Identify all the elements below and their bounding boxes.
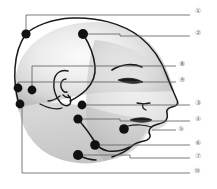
landmark-point-3 [78, 101, 87, 110]
landmark-point-1 [21, 29, 30, 38]
landmark-point-4 [73, 114, 82, 123]
label-3: ③ [195, 99, 201, 108]
head-diagram-svg [0, 0, 217, 189]
label-6: ⑥ [195, 139, 201, 148]
face-shape [86, 40, 178, 161]
landmark-point-2 [78, 29, 88, 39]
landmark-point-10 [16, 100, 25, 109]
landmark-point-9 [14, 84, 23, 93]
landmark-point-5 [119, 124, 129, 134]
label-9: ⑨ [179, 76, 185, 85]
label-4: ④ [195, 115, 201, 124]
label-1: ① [195, 7, 201, 16]
landmark-point-7 [73, 150, 83, 160]
label-7: ⑦ [195, 152, 201, 161]
head-landmark-figure: ① ② ⑧ ⑨ ③ ④ ⑤ ⑥ ⑦ ⑩ [0, 0, 217, 189]
landmark-point-6 [90, 140, 100, 150]
label-2: ② [195, 29, 201, 38]
label-8: ⑧ [179, 60, 185, 69]
label-10: ⑩ [194, 167, 200, 176]
label-5: ⑤ [178, 125, 184, 134]
landmark-point-8 [28, 86, 37, 95]
